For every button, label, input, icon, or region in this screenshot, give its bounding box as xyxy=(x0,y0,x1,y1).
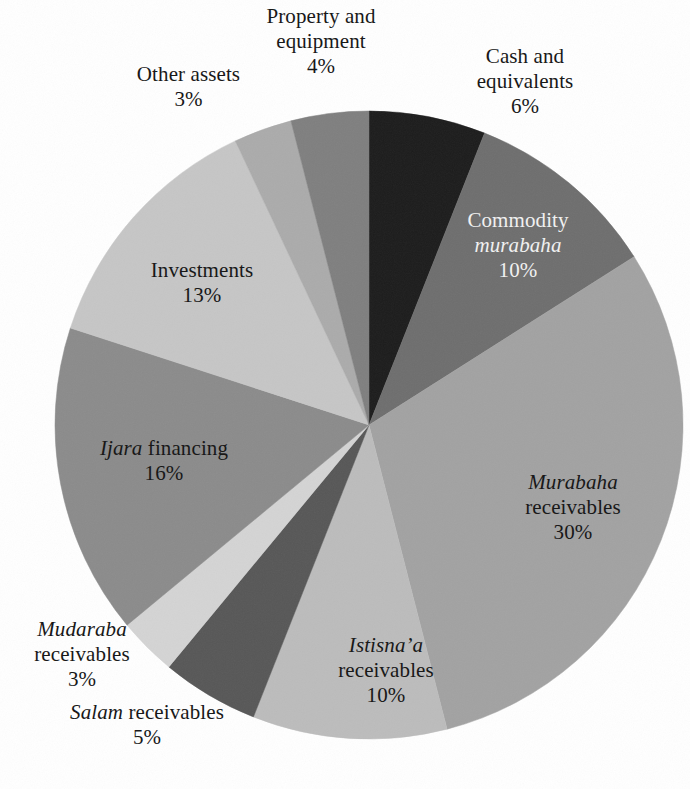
slice-label-line-1: Cash and xyxy=(430,44,620,69)
slice-label-cash-and-equivalents: Cash and equivalents 6% xyxy=(430,44,620,118)
slice-value-ijara-financing: 16% xyxy=(64,461,264,486)
slice-value-investments: 13% xyxy=(112,283,292,308)
slice-label-line-1: Commodity xyxy=(432,208,604,233)
slice-label-line-1: Property and xyxy=(231,4,411,29)
slice-label-line-1: Salam receivables xyxy=(36,700,258,725)
slice-label-ijara-financing: Ijara financing 16% xyxy=(64,436,264,486)
slice-label-line-1: Mudaraba xyxy=(2,617,162,642)
slice-value-mudaraba-receivables: 3% xyxy=(2,667,162,692)
slice-value-other-assets: 3% xyxy=(96,87,281,112)
slice-label-line-1: Investments xyxy=(112,258,292,283)
slice-label-salam-receivables: Salam receivables 5% xyxy=(36,700,258,750)
slice-label-commodity-murabaha: Commodity murabaha 10% xyxy=(432,208,604,282)
slice-label-line-2: equipment xyxy=(231,29,411,54)
slice-label-murabaha-receivables: Murabaha receivables 30% xyxy=(492,470,654,544)
slice-label-line-2: receivables xyxy=(492,495,654,520)
slice-label-investments: Investments 13% xyxy=(112,258,292,308)
slice-label-line-2: receivables xyxy=(2,642,162,667)
slice-value-istisna-receivables: 10% xyxy=(306,683,466,708)
slice-value-murabaha-receivables: 30% xyxy=(492,520,654,545)
slice-label-line-1: Ijara financing xyxy=(64,436,264,461)
slice-label-italic-term: Ijara xyxy=(100,436,143,460)
slice-value-salam-receivables: 5% xyxy=(36,725,258,750)
slice-value-commodity-murabaha: 10% xyxy=(432,258,604,283)
slice-label-line-2: equivalents xyxy=(430,69,620,94)
slice-label-roman-term: financing xyxy=(142,436,228,460)
slice-label-line-1: Murabaha xyxy=(492,470,654,495)
pie-chart-figure: Property and equipment 4% Cash and equiv… xyxy=(0,0,690,789)
slice-label-istisna-receivables: Istisna’a receivables 10% xyxy=(306,633,466,707)
slice-value-cash-and-equivalents: 6% xyxy=(430,94,620,119)
slice-label-line-1: Other assets xyxy=(96,62,281,87)
slice-label-line-2: murabaha xyxy=(432,233,604,258)
slice-label-roman-term: receivables xyxy=(123,700,224,724)
slice-label-mudaraba-receivables: Mudaraba receivables 3% xyxy=(2,617,162,691)
slice-label-other-assets: Other assets 3% xyxy=(96,62,281,112)
slice-label-line-1: Istisna’a xyxy=(306,633,466,658)
slice-label-italic-term: Salam xyxy=(70,700,123,724)
slice-label-line-2: receivables xyxy=(306,658,466,683)
